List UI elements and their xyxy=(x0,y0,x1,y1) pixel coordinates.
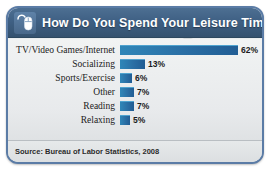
bar-track: 62% xyxy=(120,43,262,57)
bar-chart-plot-area: TV/Video Games/Internet 62% Socializing … xyxy=(8,39,262,140)
bar-track: 13% xyxy=(120,57,262,71)
bar-value-label: 7% xyxy=(137,87,149,97)
page-title: How Do You Spend Your Leisure Time? xyxy=(42,16,264,30)
source-citation: Source: Bureau of Labor Statistics, 2008 xyxy=(15,147,159,156)
bar-category-label: Other xyxy=(8,87,120,97)
bar-value-label: 7% xyxy=(137,101,149,111)
bar-value-fill xyxy=(120,73,132,83)
bar-category-label: TV/Video Games/Internet xyxy=(8,45,120,55)
bar-category-label: Reading xyxy=(8,101,120,111)
bar-value-label: 6% xyxy=(135,73,147,83)
bar-value-fill xyxy=(120,45,238,55)
bar-value-label: 5% xyxy=(133,115,145,125)
bar-track: 7% xyxy=(120,85,262,99)
bar-category-label: Sports/Exercise xyxy=(8,73,120,83)
bar-value-fill xyxy=(120,59,145,69)
bar-category-label: Relaxing xyxy=(8,115,120,125)
bar-value-label: 62% xyxy=(241,45,258,55)
bar-value-fill xyxy=(120,115,130,125)
table-row: Sports/Exercise 6% xyxy=(8,71,262,85)
bar-value-fill xyxy=(120,101,134,111)
bar-track: 6% xyxy=(120,71,262,85)
table-row: TV/Video Games/Internet 62% xyxy=(8,43,262,57)
bar-value-fill xyxy=(120,87,134,97)
table-row: Reading 7% xyxy=(8,99,262,113)
table-row: Other 7% xyxy=(8,85,262,99)
bar-value-label: 13% xyxy=(148,59,165,69)
table-row: Relaxing 5% xyxy=(8,113,262,127)
table-row: Socializing 13% xyxy=(8,57,262,71)
bar-track: 7% xyxy=(120,99,262,113)
computer-mouse-icon xyxy=(14,12,36,34)
bar-category-label: Socializing xyxy=(8,59,120,69)
infographic-card: How Do You Spend Your Leisure Time? TV/V… xyxy=(6,6,264,164)
chart-header: How Do You Spend Your Leisure Time? xyxy=(8,8,262,38)
bar-track: 5% xyxy=(120,113,262,127)
chart-footer: Source: Bureau of Labor Statistics, 2008 xyxy=(8,140,262,162)
